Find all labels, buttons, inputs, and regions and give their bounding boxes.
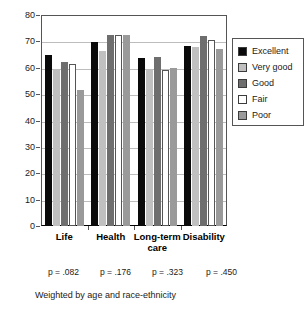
bar (192, 47, 199, 226)
bar (162, 70, 169, 226)
bar (184, 46, 191, 226)
bar (61, 62, 68, 226)
bar (91, 42, 98, 226)
bar (77, 90, 84, 226)
y-tick-label: 10 (13, 196, 35, 205)
bar (115, 35, 122, 226)
legend-label: Good (252, 79, 274, 88)
bar (53, 70, 60, 226)
legend-swatch-icon (238, 63, 247, 72)
x-tick-mark (88, 226, 89, 230)
y-tick-mark (36, 41, 40, 42)
legend-item[interactable]: Very good (238, 61, 293, 73)
legend-swatch-icon (238, 95, 247, 104)
y-tick-label: 50 (13, 90, 35, 99)
chart-legend: ExcellentVery goodGoodFairPoor (232, 38, 304, 126)
y-tick-mark (36, 121, 40, 122)
y-tick-mark (36, 68, 40, 69)
bar-series-layer (41, 15, 227, 226)
y-tick-label: 60 (13, 64, 35, 73)
legend-swatch-icon (238, 47, 247, 56)
bar (99, 51, 106, 226)
legend-label: Very good (252, 63, 293, 72)
legend-item[interactable]: Poor (238, 109, 271, 121)
bar (45, 55, 52, 226)
bar (69, 64, 76, 226)
y-tick-label: 30 (13, 143, 35, 152)
legend-swatch-icon (238, 111, 247, 120)
p-value-label: p = .450 (206, 268, 237, 277)
p-value-label: p = .082 (48, 268, 79, 277)
legend-item[interactable]: Good (238, 77, 274, 89)
bar (170, 68, 177, 227)
x-tick-mark (181, 226, 182, 230)
y-tick-label: 40 (13, 117, 35, 126)
chart-figure: 01020304050607080 LifeHealthLong-termcar… (0, 0, 308, 314)
bar (216, 49, 223, 226)
x-axis-group-label-line: Disability (164, 231, 244, 242)
chart-footnote: Weighted by age and race-ethnicity (35, 290, 176, 300)
legend-label: Poor (252, 111, 271, 120)
p-value-label: p = .323 (152, 268, 183, 277)
y-tick-mark (36, 226, 40, 227)
x-axis-group-label-line: care (117, 242, 197, 253)
x-tick-mark (134, 226, 135, 230)
bar (138, 58, 145, 226)
y-tick-mark (36, 15, 40, 16)
legend-item[interactable]: Fair (238, 93, 268, 105)
legend-label: Fair (252, 95, 268, 104)
y-tick-label: 80 (13, 11, 35, 20)
y-tick-label: 20 (13, 169, 35, 178)
y-tick-label: 0 (13, 222, 35, 231)
y-tick-mark (36, 173, 40, 174)
y-tick-label: 70 (13, 37, 35, 46)
y-tick-mark (36, 200, 40, 201)
p-value-label: p = .176 (100, 268, 131, 277)
bar (107, 35, 114, 226)
bar (154, 57, 161, 226)
y-tick-mark (36, 147, 40, 148)
bar (200, 36, 207, 226)
legend-label: Excellent (252, 47, 289, 56)
bar (208, 40, 215, 226)
legend-item[interactable]: Excellent (238, 45, 289, 57)
bar (123, 35, 130, 226)
legend-swatch-icon (238, 79, 247, 88)
x-axis-group-label: Disability (164, 231, 244, 242)
y-tick-mark (36, 94, 40, 95)
bar (146, 70, 153, 226)
